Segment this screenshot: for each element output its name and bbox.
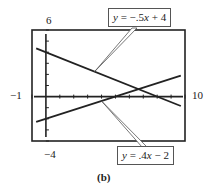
- callout-pointer-bottom: [102, 101, 147, 147]
- callout-pointer-top: [95, 28, 137, 72]
- ymax-label: 6: [46, 14, 52, 26]
- ymin-label: −4: [44, 148, 56, 160]
- graph-frame: [32, 30, 185, 141]
- callout-line-decreasing: y = −.5x + 4: [108, 8, 171, 27]
- figure-caption: (b): [97, 171, 110, 183]
- xmin-label: −1: [10, 89, 22, 101]
- callout-line-increasing: y = .4x − 2: [117, 146, 174, 165]
- xmax-label: 10: [192, 89, 203, 101]
- line-increasing: [36, 76, 181, 122]
- graph-canvas: [0, 0, 208, 188]
